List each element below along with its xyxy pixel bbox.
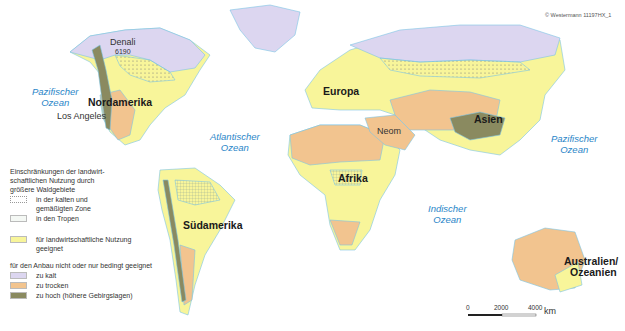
legend-item-tropic-forest: in den Tropen: [10, 214, 160, 223]
ocean-label-pacific-west: Pazifischer Ozean: [32, 86, 78, 108]
north-america: [70, 5, 300, 145]
ocean-label-pacific-east: Pazifischer Ozean: [551, 133, 597, 155]
label-europa: Europa: [323, 85, 359, 97]
legend-item-dry: zu trocken: [10, 281, 160, 290]
label-ozeanien: Ozeanien: [570, 266, 617, 278]
label-afrika: Afrika: [338, 172, 368, 184]
legend-item-cold-forest: in der kalten undgemäßigten Zone: [10, 195, 160, 213]
city-los-angeles: Los Angeles: [57, 111, 106, 121]
legend-forest-title: Einschränkungen der landwirt- schaftlich…: [10, 167, 160, 194]
legend: Einschränkungen der landwirt- schaftlich…: [10, 167, 160, 300]
cold-swatch-icon: [10, 272, 27, 279]
south-america: [158, 168, 235, 315]
ocean-label-indian: Indischer Ozean: [428, 203, 467, 225]
copyright-notice: © Westermann 11197HX_1: [545, 12, 611, 18]
legend-item-suitable: für landwirtschaftliche Nutzunggeeignet: [10, 235, 160, 253]
dots-swatch-icon: [10, 196, 27, 203]
legend-item-high: zu hoch (höhere Gebirgslagen): [10, 291, 160, 300]
legend-item-cold: zu kalt: [10, 271, 160, 280]
city-neom: Neom: [377, 126, 401, 136]
grid-swatch-icon: [10, 215, 27, 222]
label-nordamerika: Nordamerika: [88, 96, 152, 108]
ocean-label-atlantic: Atlantischer Ozean: [210, 131, 260, 153]
suitable-swatch-icon: [10, 236, 27, 243]
scale-bar-graphic: [468, 314, 536, 316]
legend-unsuitable-title: für den Anbau nicht oder nur bedingt gee…: [10, 261, 160, 270]
peak-denali-height: 6190: [115, 48, 131, 55]
label-asien: Asien: [474, 113, 503, 125]
peak-denali: Denali: [110, 37, 136, 47]
dry-swatch-icon: [10, 282, 27, 289]
label-suedamerika: Südamerika: [183, 219, 243, 231]
high-swatch-icon: [10, 292, 27, 299]
